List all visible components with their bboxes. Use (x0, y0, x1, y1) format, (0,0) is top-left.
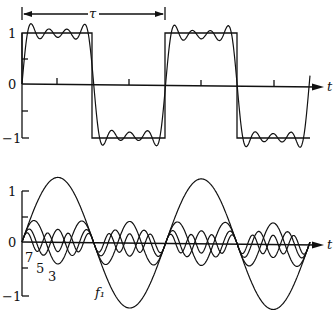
bottom-ytick-neg1: −1 (2, 289, 21, 304)
partial-sum-curve (22, 24, 310, 148)
bottom-ytick-0: 0 (8, 235, 16, 250)
label-harmonic-7: 7 (25, 250, 33, 265)
bottom-ytick-1: 1 (8, 184, 16, 199)
label-fundamental: f₁ (94, 285, 105, 300)
top-axis-arrow-icon (312, 84, 324, 91)
bottom-panel: 1 0 −1 t 7 5 3 f₁ (2, 177, 333, 309)
top-ytick-neg1: −1 (2, 131, 21, 146)
label-harmonic-5: 5 (36, 261, 44, 276)
top-panel: τ 1 0 −1 t (2, 6, 333, 147)
period-arrow: τ (22, 6, 165, 21)
period-label: τ (89, 6, 97, 21)
label-harmonic-3: 3 (48, 269, 56, 284)
top-ytick-1: 1 (8, 26, 16, 41)
fourier-figure: τ 1 0 −1 t 1 0 −1 t (0, 0, 335, 315)
top-ytick-0: 0 (8, 77, 16, 92)
top-x-label: t (327, 79, 333, 94)
bottom-x-label: t (327, 237, 333, 252)
bottom-axis-arrow-icon (312, 242, 324, 249)
